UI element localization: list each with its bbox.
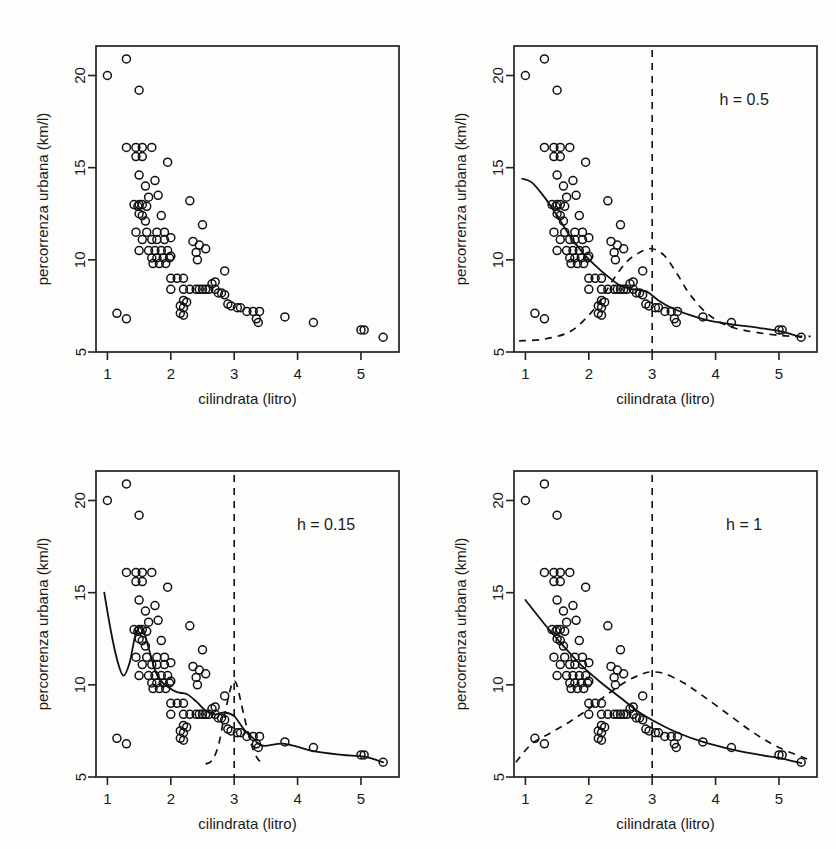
data-point bbox=[569, 177, 577, 185]
data-point bbox=[145, 618, 153, 626]
plot-canvas: 123455101520cilindrata (litro)percorrenz… bbox=[418, 0, 836, 424]
data-point bbox=[148, 568, 156, 576]
data-point bbox=[151, 602, 159, 610]
y-tick-label: 5 bbox=[490, 348, 507, 356]
x-tick-label: 5 bbox=[357, 790, 365, 807]
data-point bbox=[540, 568, 548, 576]
data-point bbox=[135, 247, 143, 255]
plot-canvas: 123455101520cilindrata (litro)percorrenz… bbox=[0, 0, 418, 424]
data-point bbox=[135, 511, 143, 519]
y-axis-title: percorrenza urbana (km/l) bbox=[34, 538, 51, 711]
data-point bbox=[202, 670, 210, 678]
data-point bbox=[122, 315, 130, 323]
data-point bbox=[553, 511, 561, 519]
data-point bbox=[563, 618, 571, 626]
data-point bbox=[221, 692, 229, 700]
data-point bbox=[639, 267, 647, 275]
data-point bbox=[164, 158, 172, 166]
data-point bbox=[309, 319, 317, 327]
x-tick-label: 1 bbox=[103, 790, 111, 807]
y-axis-title: percorrenza urbana (km/l) bbox=[34, 113, 51, 286]
x-tick-label: 3 bbox=[230, 365, 238, 382]
data-point bbox=[604, 197, 612, 205]
data-point bbox=[604, 622, 612, 630]
x-tick-label: 1 bbox=[521, 365, 529, 382]
data-point bbox=[122, 143, 130, 151]
x-tick-label: 5 bbox=[357, 365, 365, 382]
data-point bbox=[148, 143, 156, 151]
data-point bbox=[138, 236, 146, 244]
y-tick-label: 15 bbox=[490, 584, 507, 601]
x-tick-label: 4 bbox=[293, 365, 301, 382]
x-axis-title: cilindrata (litro) bbox=[616, 390, 714, 407]
data-point bbox=[132, 228, 140, 236]
y-tick-label: 20 bbox=[72, 492, 89, 509]
data-point bbox=[103, 496, 111, 504]
data-point bbox=[563, 193, 571, 201]
data-point bbox=[157, 212, 165, 220]
data-point bbox=[198, 221, 206, 229]
data-point bbox=[521, 496, 529, 504]
data-point bbox=[575, 212, 583, 220]
data-point bbox=[569, 602, 577, 610]
x-axis-title: cilindrata (litro) bbox=[198, 815, 296, 832]
data-point bbox=[556, 661, 564, 669]
data-point bbox=[553, 596, 561, 604]
x-tick-label: 2 bbox=[167, 790, 175, 807]
data-point bbox=[561, 653, 569, 661]
bandwidth-annotation: h = 0.15 bbox=[297, 516, 355, 533]
data-point bbox=[559, 182, 567, 190]
data-point bbox=[572, 616, 580, 624]
panel-scatter-raw: 123455101520cilindrata (litro)percorrenz… bbox=[0, 0, 418, 424]
data-point bbox=[167, 285, 175, 293]
data-point bbox=[135, 171, 143, 179]
data-point bbox=[103, 71, 111, 79]
data-point bbox=[575, 637, 583, 645]
kernel-weight-curve bbox=[519, 249, 811, 341]
scatter-points bbox=[103, 55, 387, 341]
x-axis-title: cilindrata (litro) bbox=[198, 390, 296, 407]
y-tick-label: 15 bbox=[490, 159, 507, 176]
data-point bbox=[151, 177, 159, 185]
x-tick-label: 4 bbox=[293, 790, 301, 807]
y-tick-label: 5 bbox=[490, 773, 507, 781]
data-point bbox=[138, 661, 146, 669]
plot-canvas: 123455101520cilindrata (litro)percorrenz… bbox=[0, 425, 418, 849]
data-point bbox=[553, 672, 561, 680]
y-tick-label: 5 bbox=[72, 773, 89, 781]
data-point bbox=[135, 596, 143, 604]
panel-kernel-h05: 123455101520cilindrata (litro)percorrenz… bbox=[418, 0, 836, 424]
data-point bbox=[154, 191, 162, 199]
data-point bbox=[143, 228, 151, 236]
x-axis-title: cilindrata (litro) bbox=[616, 815, 714, 832]
data-point bbox=[113, 734, 121, 742]
y-tick-label: 10 bbox=[72, 676, 89, 693]
data-point bbox=[113, 309, 121, 317]
data-point bbox=[553, 247, 561, 255]
data-point bbox=[550, 228, 558, 236]
data-point bbox=[521, 71, 529, 79]
data-point bbox=[122, 568, 130, 576]
plot-canvas: 123455101520cilindrata (litro)percorrenz… bbox=[418, 425, 836, 849]
data-point bbox=[122, 55, 130, 63]
data-point bbox=[122, 480, 130, 488]
data-point bbox=[585, 710, 593, 718]
data-point bbox=[639, 692, 647, 700]
y-tick-label: 20 bbox=[490, 67, 507, 84]
x-tick-label: 1 bbox=[521, 790, 529, 807]
y-tick-label: 15 bbox=[72, 584, 89, 601]
data-point bbox=[164, 583, 172, 591]
data-point bbox=[198, 646, 206, 654]
data-point bbox=[141, 182, 149, 190]
data-point bbox=[379, 333, 387, 341]
y-tick-label: 10 bbox=[72, 251, 89, 268]
data-point bbox=[540, 480, 548, 488]
y-tick-label: 15 bbox=[72, 159, 89, 176]
x-tick-label: 2 bbox=[585, 365, 593, 382]
data-point bbox=[553, 86, 561, 94]
data-point bbox=[135, 86, 143, 94]
data-point bbox=[566, 143, 574, 151]
regression-curve bbox=[104, 593, 383, 763]
data-point bbox=[620, 670, 628, 678]
x-tick-label: 1 bbox=[103, 365, 111, 382]
